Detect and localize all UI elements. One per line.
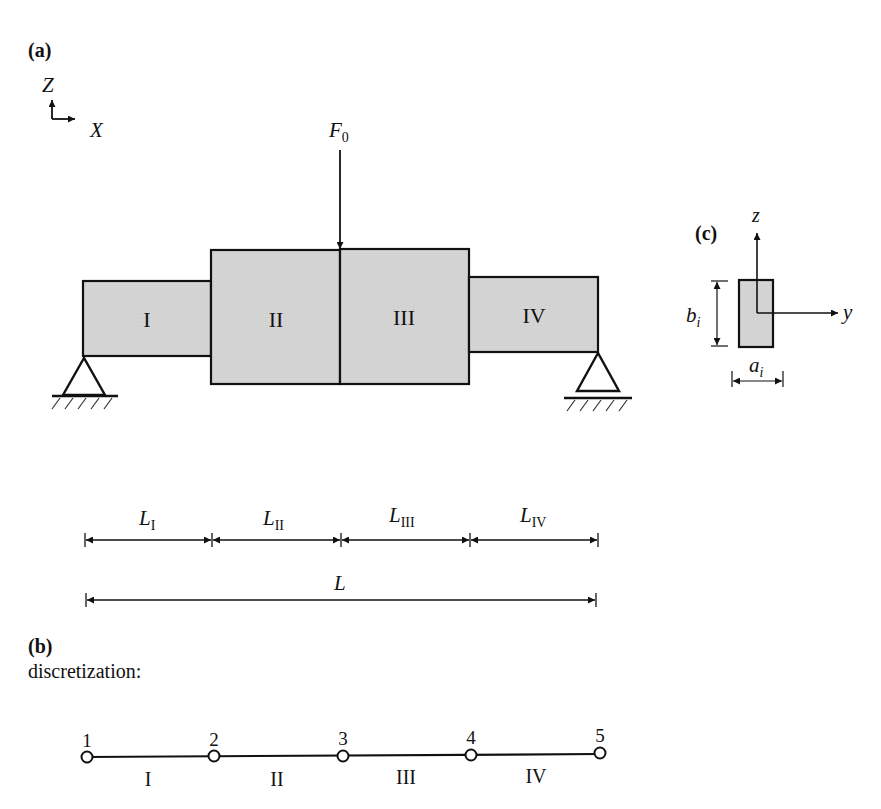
segment-label-IV: IV xyxy=(522,303,545,328)
global-axes-icon xyxy=(52,100,75,119)
segment-label-I: I xyxy=(143,307,150,332)
discretization-mesh xyxy=(82,748,606,763)
local-y-label: y xyxy=(841,300,853,324)
panel-a-label: (a) xyxy=(28,39,51,62)
element-label-III: III xyxy=(396,766,416,788)
width-label: ai xyxy=(749,353,764,380)
node-label-5: 5 xyxy=(595,725,605,746)
load-label: F0 xyxy=(328,118,349,145)
beam xyxy=(83,249,598,384)
segment-dimensions xyxy=(85,533,598,547)
panel-c-label: (c) xyxy=(695,222,717,245)
element-label-II: II xyxy=(270,768,283,790)
node-5 xyxy=(595,748,606,759)
axis-x-label: X xyxy=(89,118,104,142)
axis-z-label: Z xyxy=(42,73,54,97)
local-z-label: z xyxy=(751,204,760,226)
discretization-caption: discretization: xyxy=(28,660,141,682)
length-label-IV: LIV xyxy=(519,503,546,530)
node-label-1: 1 xyxy=(82,730,92,751)
panel-b-label: (b) xyxy=(28,635,52,658)
element-label-IV: IV xyxy=(525,765,547,787)
segment-label-III: III xyxy=(393,305,415,330)
length-label-II: LII xyxy=(262,506,284,533)
segment-label-II: II xyxy=(269,307,284,332)
node-2 xyxy=(209,751,220,762)
node-label-2: 2 xyxy=(209,729,219,750)
beam-diagram: (a) Z X I II III IV F0 xyxy=(0,0,881,809)
node-3 xyxy=(338,751,349,762)
height-label: bi xyxy=(686,303,701,330)
length-label-III: LIII xyxy=(388,503,415,530)
element-label-I: I xyxy=(145,768,152,790)
total-length-dimension xyxy=(86,593,596,607)
node-label-4: 4 xyxy=(466,727,476,748)
node-1 xyxy=(82,752,93,763)
length-label-I: LI xyxy=(138,506,156,533)
cross-section xyxy=(711,233,838,387)
node-4 xyxy=(466,750,477,761)
node-label-3: 3 xyxy=(338,728,348,749)
right-support-icon xyxy=(564,353,632,411)
total-length-label: L xyxy=(333,571,346,595)
left-support-icon xyxy=(52,358,118,409)
